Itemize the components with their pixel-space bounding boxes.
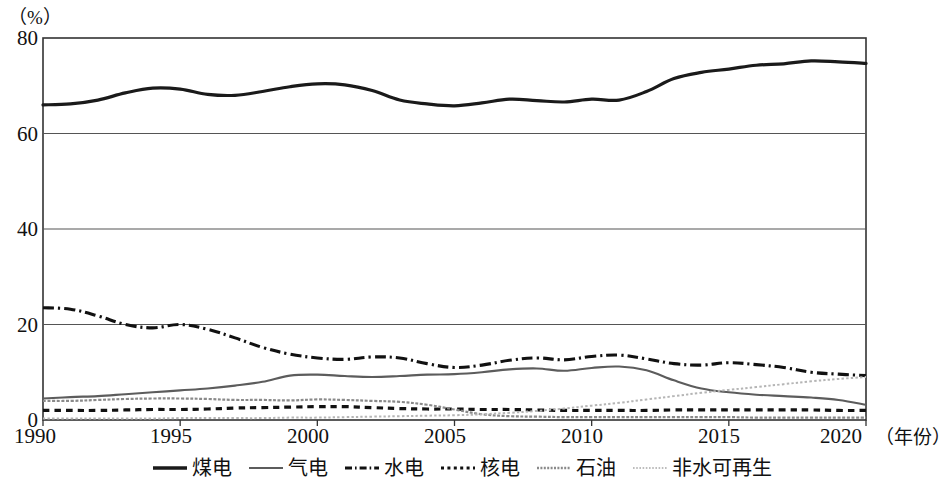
legend-label-gas: 气电 [288,458,328,478]
x-tick-1995: 1995 [150,426,192,447]
series-line-2 [43,308,866,376]
x-tick-2020: 2020 [820,426,862,447]
legend-swatch-nonhydro-renewable [632,461,668,475]
x-axis-title: （年份） [875,427,943,448]
legend-label-hydro: 水电 [384,458,424,478]
legend-item-gas[interactable]: 气电 [248,458,328,478]
legend-swatch-coal [152,461,188,475]
x-tick-2015: 2015 [698,426,740,447]
legend-label-nuclear: 核电 [480,458,520,478]
legend-item-hydro[interactable]: 水电 [344,458,424,478]
series-line-0 [43,61,866,106]
legend-item-nonhydro-renewable[interactable]: 非水可再生 [632,458,772,478]
legend-label-nonhydro-renewable: 非水可再生 [672,458,772,478]
legend-swatch-hydro [344,461,380,475]
legend-label-oil: 石油 [576,458,616,478]
legend-swatch-oil [536,461,572,475]
data-series-group [43,61,866,419]
x-tick-2000: 2000 [287,426,329,447]
legend-item-coal[interactable]: 煤电 [152,458,232,478]
x-tick-2005: 2005 [424,426,466,447]
series-line-5 [43,377,866,419]
x-tick-1990: 1990 [14,426,56,447]
gridlines [43,134,866,325]
series-line-1 [43,366,866,404]
legend-item-nuclear[interactable]: 核电 [440,458,520,478]
x-tick-2010: 2010 [561,426,603,447]
chart-legend: 煤电 气电 水电 核电 石油 [0,458,923,478]
legend-swatch-nuclear [440,461,476,475]
legend-swatch-gas [248,461,284,475]
legend-label-coal: 煤电 [192,458,232,478]
legend-item-oil[interactable]: 石油 [536,458,616,478]
